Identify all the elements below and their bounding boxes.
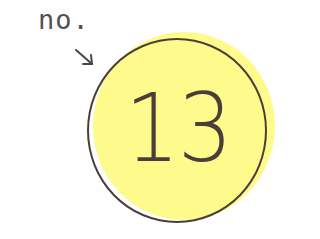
arrow-down-right-icon bbox=[72, 46, 98, 70]
badge-number-text: 13 bbox=[125, 82, 231, 176]
number-label: no. bbox=[38, 6, 90, 33]
badge-number: 13 bbox=[87, 38, 269, 223]
